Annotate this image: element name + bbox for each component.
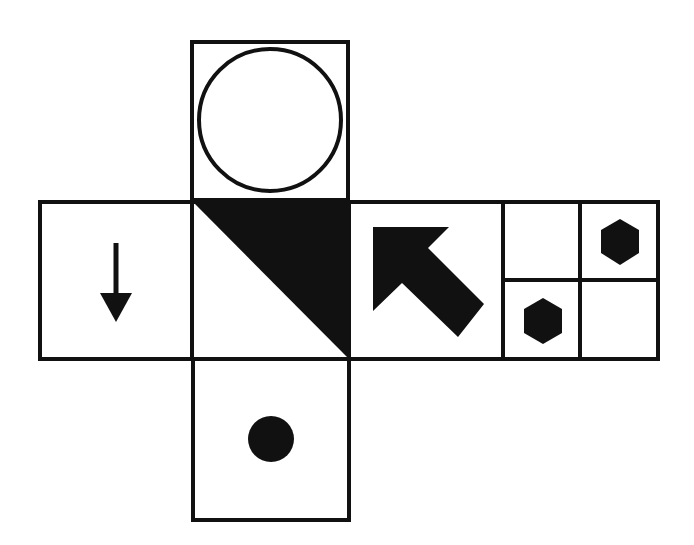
- cube-net-diagram: [0, 0, 694, 545]
- filled-dot-icon: [248, 416, 294, 462]
